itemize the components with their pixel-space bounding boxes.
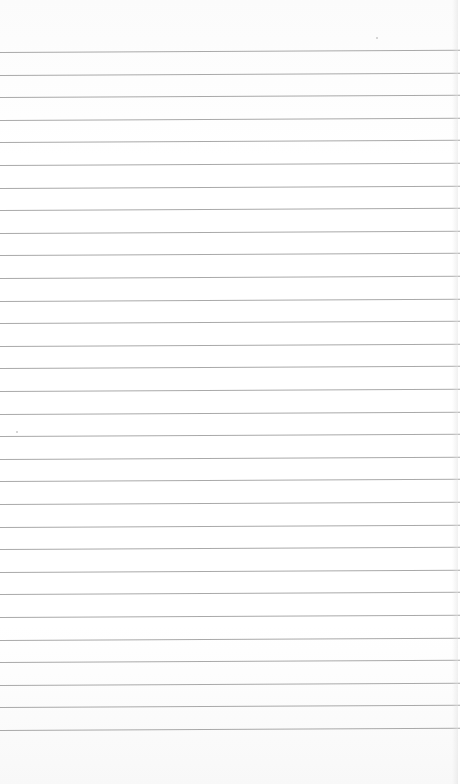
ruled-line: [0, 50, 460, 53]
ruled-line: [0, 185, 460, 188]
ruled-line: [0, 411, 460, 414]
ruled-line: [0, 163, 460, 166]
ruled-line: [0, 72, 460, 75]
ruled-line: [0, 231, 460, 234]
speck: [16, 431, 18, 433]
ruled-line: [0, 637, 460, 640]
ruled-line: [0, 344, 460, 347]
ruled-line: [0, 457, 460, 460]
ruled-line: [0, 660, 460, 663]
ruled-line: [0, 502, 460, 505]
speck: [376, 37, 378, 39]
paper-edge-shadow: [452, 0, 458, 784]
ruled-line: [0, 434, 460, 437]
ruled-line: [0, 140, 460, 143]
ruled-line: [0, 570, 460, 573]
ruled-line: [0, 728, 460, 731]
ruled-line: [0, 547, 460, 550]
ruled-line: [0, 253, 460, 256]
ruled-line: [0, 118, 460, 121]
ruled-line: [0, 524, 460, 527]
ruled-line: [0, 705, 460, 708]
ruled-line: [0, 592, 460, 595]
ruled-line: [0, 389, 460, 392]
ruled-line: [0, 479, 460, 482]
ruled-line: [0, 321, 460, 324]
ruled-line: [0, 208, 460, 211]
ruled-line: [0, 366, 460, 369]
ruled-line: [0, 615, 460, 618]
ruled-line: [0, 683, 460, 686]
ruled-line: [0, 95, 460, 98]
ruled-line: [0, 276, 460, 279]
ruled-line: [0, 298, 460, 301]
